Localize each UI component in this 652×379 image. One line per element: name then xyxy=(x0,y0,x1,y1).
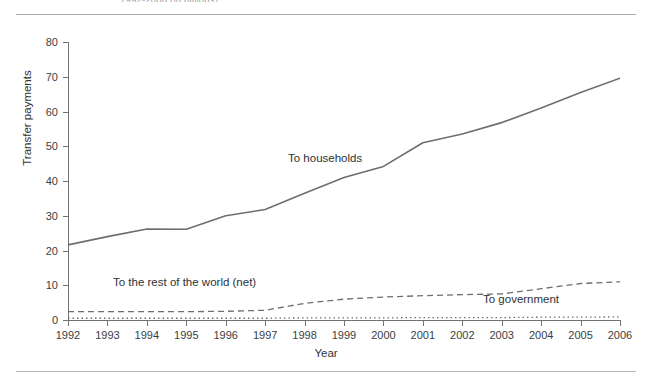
x-tick xyxy=(344,321,345,326)
x-tick xyxy=(620,321,621,326)
x-tick-label: 1994 xyxy=(125,329,169,341)
x-tick-label: 1999 xyxy=(322,329,366,341)
x-tick xyxy=(541,321,542,326)
x-tick xyxy=(502,321,503,326)
x-tick xyxy=(147,321,148,326)
y-axis-title: Transfer payments xyxy=(21,43,33,193)
x-tick xyxy=(383,321,384,326)
y-tick-label: 0 xyxy=(0,314,58,326)
x-tick-label: 2006 xyxy=(598,329,642,341)
x-tick-label: 1995 xyxy=(164,329,208,341)
x-tick xyxy=(423,321,424,326)
annotation-to-rest-of-world: To the rest of the world (net) xyxy=(113,276,256,288)
annotation-to-households: To households xyxy=(288,152,362,164)
bottom-divider xyxy=(16,371,636,372)
x-tick xyxy=(265,321,266,326)
x-tick-label: 2001 xyxy=(401,329,445,341)
x-tick-label: 2002 xyxy=(440,329,484,341)
x-tick-label: 2005 xyxy=(559,329,603,341)
top-divider xyxy=(16,14,636,15)
y-tick-label: 30 xyxy=(0,210,58,222)
x-tick xyxy=(581,321,582,326)
x-tick xyxy=(107,321,108,326)
x-tick xyxy=(226,321,227,326)
chart-page: 1992-2006 (in billions) 0102030405060708… xyxy=(0,0,652,379)
annotation-to-government: To government xyxy=(483,293,559,305)
y-tick-label: 10 xyxy=(0,279,58,291)
y-tick-label: 20 xyxy=(0,245,58,257)
x-tick-label: 1992 xyxy=(46,329,90,341)
x-tick-label: 1996 xyxy=(204,329,248,341)
x-tick-label: 2004 xyxy=(519,329,563,341)
x-tick xyxy=(68,321,69,326)
x-tick-label: 1997 xyxy=(243,329,287,341)
x-axis-title: Year xyxy=(0,347,652,359)
x-tick-label: 1993 xyxy=(85,329,129,341)
top-caption: 1992-2006 (in billions) xyxy=(120,0,218,2)
x-tick-label: 1998 xyxy=(283,329,327,341)
x-tick xyxy=(305,321,306,326)
series-line-to-government xyxy=(68,317,620,318)
x-tick xyxy=(186,321,187,326)
x-tick xyxy=(462,321,463,326)
x-tick-label: 2003 xyxy=(480,329,524,341)
x-tick-label: 2000 xyxy=(361,329,405,341)
